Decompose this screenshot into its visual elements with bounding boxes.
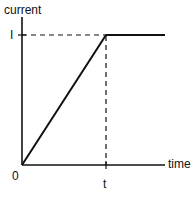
y-tick-label: I: [10, 29, 13, 41]
origin-label: 0: [12, 170, 19, 182]
x-axis-label: time: [168, 158, 191, 170]
y-axis-label: current: [4, 4, 41, 16]
x-tick-label: t: [103, 178, 106, 190]
current-series-line: [22, 35, 165, 165]
chart-plot: [0, 0, 196, 197]
